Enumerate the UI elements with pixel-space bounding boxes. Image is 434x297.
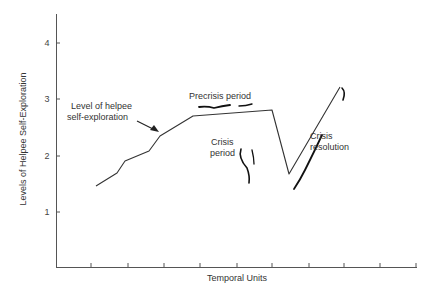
annotation-crisis-line2: period bbox=[210, 148, 235, 158]
annotation-precrisis: Precrisis period bbox=[189, 91, 251, 101]
y-tick-3: 3 bbox=[44, 94, 49, 104]
annotation-resolution-line1: Crisis bbox=[310, 131, 333, 141]
chart: 4 3 2 1 Levels of Helpee Self-Exploratio… bbox=[0, 0, 434, 297]
x-ticks bbox=[91, 263, 416, 267]
annotation-resolution-line2: resolution bbox=[310, 142, 349, 152]
annotation-arrow bbox=[137, 121, 159, 132]
y-tick-2: 2 bbox=[44, 151, 49, 161]
y-tick-1: 1 bbox=[44, 207, 49, 217]
annotation-crisis-line1: Crisis bbox=[211, 137, 234, 147]
x-axis-title: Temporal Units bbox=[207, 273, 268, 283]
y-axis-title: Levels of Helpee Self-Exploration bbox=[18, 72, 28, 205]
annotation-level-line2: self-exploration bbox=[67, 112, 128, 122]
annotation-level-line1: Level of helpee bbox=[71, 101, 132, 111]
y-tick-4: 4 bbox=[44, 38, 49, 48]
